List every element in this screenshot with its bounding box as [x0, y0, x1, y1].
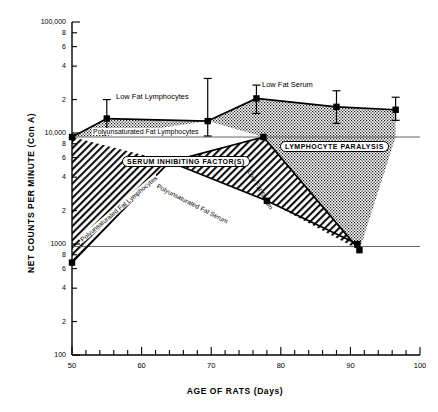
- low-fat-lymphocytes-label: Low Fat Lymphocytes: [116, 92, 189, 101]
- y-tick-label: 100: [8, 351, 66, 358]
- x-tick-label: 60: [122, 361, 162, 370]
- y-tick-label: 2: [8, 318, 66, 325]
- serum-inhibiting-factors-label: SERUM INHIBITING FACTOR(S): [122, 156, 250, 167]
- x-tick-label: 70: [191, 361, 231, 370]
- y-tick-label: 4: [8, 284, 66, 291]
- x-tick-label: 80: [261, 361, 301, 370]
- y-tick-label: 100,000: [8, 18, 66, 25]
- y-tick-label: 1000: [8, 240, 66, 247]
- y-tick-label: 2: [8, 96, 66, 103]
- y-tick-label: 6: [8, 265, 66, 272]
- y-tick-label: 8: [8, 29, 66, 36]
- y-tick-label: 2: [8, 207, 66, 214]
- low-fat-serum-label: Low Fat Serum: [262, 80, 313, 89]
- y-tick-label: 6: [8, 154, 66, 161]
- y-tick-label: 6: [8, 43, 66, 50]
- polyunsaturated-fat-lymphocytes-upper-label: Polyunsaturated Fat Lymphocytes: [92, 128, 200, 135]
- y-tick-label: 8: [8, 140, 66, 147]
- x-tick-label: 50: [52, 361, 92, 370]
- y-tick-label: 10,000: [8, 129, 66, 136]
- x-tick-label: 90: [330, 361, 370, 370]
- y-tick-label: 4: [8, 173, 66, 180]
- y-tick-label: 4: [8, 62, 66, 69]
- x-tick-label: 100: [400, 361, 438, 370]
- y-tick-label: 8: [8, 251, 66, 258]
- lymphocyte-paralysis-label: LYMPHOCYTE PARALYSIS: [280, 141, 389, 152]
- chart-figure: NET COUNTS PER MINUTE (Con A) AGE OF RAT…: [0, 0, 438, 412]
